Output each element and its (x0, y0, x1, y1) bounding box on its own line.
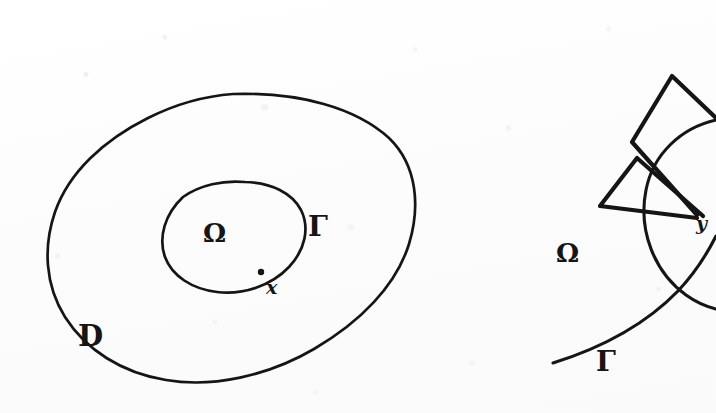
label-gamma-right: Γ (596, 348, 616, 376)
label-omega-left: Ω (203, 220, 226, 246)
label-omega-right: Ω (556, 240, 579, 266)
label-x-boundary-point: x (266, 278, 277, 297)
label-gamma-left: Γ (308, 213, 328, 241)
diagram-page: Ω Γ D x Ω Γ y (0, 0, 716, 413)
label-y-vertex-point: y (696, 214, 707, 233)
boundary-point-dot-x (258, 269, 264, 275)
inner-ellipse-omega (162, 182, 305, 293)
label-d-outer-domain: D (78, 322, 103, 351)
